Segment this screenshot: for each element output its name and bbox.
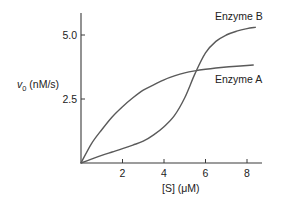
y-axis-title: v0 (nM/s) (17, 78, 59, 93)
x-tick-label: 8 (244, 167, 250, 179)
enzyme-b-curve (81, 27, 255, 163)
y-axis-title-unit: (nM/s) (26, 78, 59, 90)
chart: 2468 2.55.0 Enzyme B Enzyme A v0 (nM/s) … (0, 0, 283, 206)
y-tick-label: 5.0 (62, 29, 77, 41)
x-tick-label: 4 (161, 167, 167, 179)
x-tick-label: 6 (203, 167, 209, 179)
x-ticks: 2468 (120, 159, 251, 179)
y-tick-label: 2.5 (62, 93, 77, 105)
x-tick-label: 2 (120, 167, 126, 179)
enzyme-a-label: Enzyme A (215, 73, 262, 85)
y-ticks: 2.55.0 (62, 29, 85, 105)
enzyme-b-label: Enzyme B (215, 10, 263, 22)
x-axis-title: [S] (μM) (162, 182, 200, 194)
